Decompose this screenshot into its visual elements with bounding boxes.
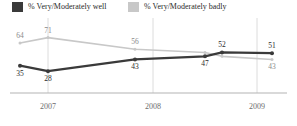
- data-point: [18, 64, 22, 68]
- data-point: [19, 42, 22, 45]
- chart-legend: % Very/Moderately well % Very/Moderately…: [0, 0, 297, 18]
- data-point: [220, 50, 224, 54]
- point-value-label: 28: [44, 74, 52, 83]
- point-value-label: 43: [268, 62, 276, 71]
- point-labels-badly: 64715643: [16, 26, 276, 72]
- data-point: [203, 54, 207, 58]
- legend-label-badly: % Very/Moderately badly: [144, 2, 227, 12]
- gridlines: [48, 18, 257, 93]
- point-value-label: 51: [268, 41, 276, 50]
- point-value-label: 35: [16, 69, 24, 78]
- legend-swatch-badly: [128, 2, 139, 12]
- plot-area: 64715643 352843475251 200720082009: [0, 18, 297, 126]
- series-badly: [19, 36, 274, 61]
- point-value-label: 64: [16, 31, 24, 40]
- data-point: [270, 51, 274, 55]
- point-value-label: 47: [201, 59, 209, 68]
- x-tick-2009: 2009: [249, 102, 265, 111]
- legend-swatch-well: [12, 2, 23, 12]
- data-point: [133, 57, 137, 61]
- legend-item-well[interactable]: % Very/Moderately well: [12, 2, 107, 12]
- point-labels-well: 352843475251: [16, 40, 276, 83]
- legend-item-badly[interactable]: % Very/Moderately badly: [128, 2, 227, 12]
- point-value-label: 43: [131, 62, 139, 71]
- x-tick-2008: 2008: [145, 102, 161, 111]
- point-value-label: 56: [131, 37, 139, 46]
- data-point: [134, 48, 137, 51]
- data-point: [271, 58, 274, 61]
- series-line: [20, 52, 272, 71]
- line-chart: % Very/Moderately well % Very/Moderately…: [0, 0, 297, 126]
- data-point: [221, 55, 224, 58]
- point-value-label: 52: [218, 40, 226, 49]
- x-axis-tick-labels: 200720082009: [40, 102, 265, 111]
- point-value-label: 71: [44, 26, 52, 35]
- data-point: [204, 51, 207, 54]
- data-point: [46, 69, 50, 73]
- data-point: [47, 36, 50, 39]
- x-tick-2007: 2007: [40, 102, 56, 111]
- plot-svg: 64715643 352843475251 200720082009: [0, 18, 297, 126]
- series-well: [18, 50, 274, 73]
- legend-label-well: % Very/Moderately well: [28, 2, 107, 12]
- series-line: [20, 38, 272, 60]
